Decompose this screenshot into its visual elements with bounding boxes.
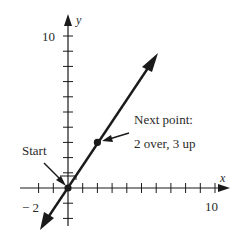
line-arrow-bottom-icon xyxy=(40,212,54,230)
next-point xyxy=(94,139,101,146)
x-min-tick-label: − 2 xyxy=(22,200,39,215)
start-pointer-arrow-icon xyxy=(56,176,66,186)
x-max-tick-label: 10 xyxy=(205,199,218,214)
y-axis-arrow-icon xyxy=(64,14,72,26)
next-point-label-line2: 2 over, 3 up xyxy=(134,136,196,151)
start-label: Start xyxy=(22,143,47,158)
y-max-tick-label: 10 xyxy=(42,29,55,44)
line-arrow-top-icon xyxy=(142,53,158,72)
x-axis-arrow-icon xyxy=(218,184,230,192)
x-axis-label: x xyxy=(219,171,226,185)
next-point-label-line1: Next point: xyxy=(134,112,193,127)
coordinate-plane: y x 10 10 − 2 Start Next point: 2 over, … xyxy=(0,0,236,231)
y-axis-label: y xyxy=(75,13,82,27)
